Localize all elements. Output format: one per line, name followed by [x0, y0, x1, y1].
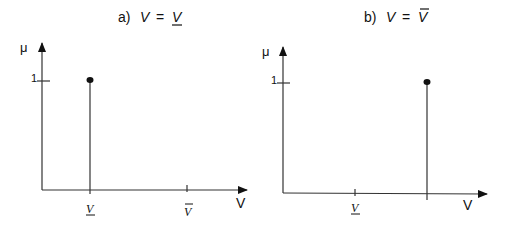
svg-text:=: = [156, 9, 164, 25]
svg-text:a): a) [118, 9, 130, 25]
x-tick-upper-label: V [184, 205, 193, 219]
x-axis [283, 193, 487, 194]
membership-diagram: a) V = V μ V 1 V V b) V = V μ V [0, 0, 506, 227]
y-axis-label: μ [262, 44, 270, 59]
svg-text:V: V [418, 9, 429, 25]
panel-b-title: b) V = V [364, 9, 429, 25]
panel-a: a) V = V μ V 1 V V [20, 9, 247, 219]
panel-b: b) V = V μ V 1 V [262, 9, 487, 215]
x-axis-label: V [236, 195, 246, 211]
panel-a-title: a) V = V [118, 9, 183, 25]
svg-text:=: = [402, 9, 410, 25]
svg-text:b): b) [364, 9, 376, 25]
membership-point [87, 77, 94, 83]
svg-text:V: V [386, 9, 397, 25]
x-tick-lower-label: V [86, 202, 95, 216]
svg-text:V: V [140, 9, 151, 25]
svg-text:V: V [172, 9, 183, 25]
y-tick-label: 1 [31, 72, 37, 84]
y-tick-label: 1 [271, 74, 277, 86]
x-axis-label: V [463, 197, 473, 213]
x-tick-lower-label: V [351, 201, 360, 215]
y-axis-label: μ [20, 40, 28, 55]
membership-point [424, 79, 431, 85]
